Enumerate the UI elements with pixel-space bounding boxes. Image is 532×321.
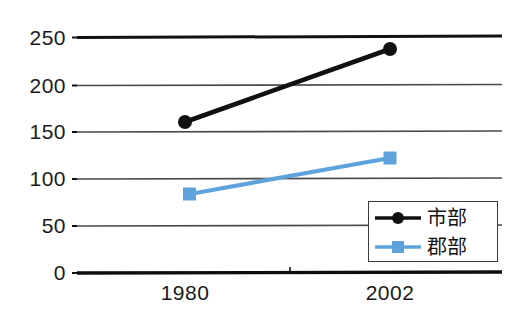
x-axis-label-1980: 1980 — [135, 282, 235, 303]
legend-label-urban: 市部 — [427, 208, 467, 228]
series-urban-marker-1980 — [178, 115, 192, 129]
series-urban-marker-2002 — [383, 42, 397, 56]
y-axis-label-250: 250 — [0, 27, 66, 48]
series-rural-marker-1980 — [183, 188, 196, 201]
legend-item-rural: 郡部 — [369, 232, 499, 261]
chart-plot-area — [0, 0, 532, 321]
circle-marker-icon — [369, 205, 427, 231]
line-chart: 250 200 150 100 50 0 1980 2002 市部 郡部 — [0, 0, 532, 321]
chart-legend: 市部 郡部 — [368, 201, 498, 262]
gridline-250 — [77, 36, 502, 38]
x-axis-label-2002: 2002 — [340, 282, 440, 303]
y-axis-label-200: 200 — [0, 75, 66, 96]
y-axis-label-50: 50 — [0, 215, 66, 236]
series-rural — [183, 152, 397, 201]
square-marker-icon — [369, 234, 427, 260]
y-axis-label-0: 0 — [0, 262, 66, 283]
gridline-150 — [77, 131, 502, 132]
y-axis-label-150: 150 — [0, 121, 66, 142]
series-rural-marker-2002 — [384, 152, 397, 165]
series-rural-line — [190, 158, 390, 194]
y-tick-marks — [72, 38, 77, 274]
legend-item-urban: 市部 — [369, 203, 499, 232]
legend-label-rural: 郡部 — [427, 237, 467, 257]
y-axis-label-100: 100 — [0, 168, 66, 189]
